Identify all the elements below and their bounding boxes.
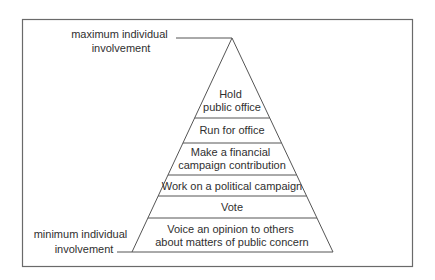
level-vote: Vote [221,201,243,213]
participation-pyramid-diagram: maximum individual involvement minimum i… [0,0,435,280]
min-involvement-line-2: involvement [55,243,114,255]
pyramid-outline [132,38,333,252]
max-involvement-label: maximum individual involvement [71,28,171,54]
level-work-on-campaign: Work on a political campaign [162,180,302,192]
min-involvement-line-1: minimum individual [34,228,128,240]
min-involvement-label: minimum individual involvement [34,228,131,255]
level-run-for-office: Run for office [199,124,264,136]
max-involvement-line-2: involvement [92,42,151,54]
level-financial-contribution: Make a financial campaign contribution [178,146,286,171]
level-voice-opinion: Voice an opinion to others about matters… [155,223,308,248]
level-hold-public-office: Hold public office [203,88,261,113]
max-involvement-line-1: maximum individual [71,28,168,40]
